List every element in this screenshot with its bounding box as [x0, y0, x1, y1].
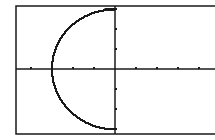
- calculator-graph-screen: [0, 0, 215, 140]
- x-tick: [156, 67, 158, 69]
- x-tick: [198, 67, 200, 69]
- y-tick: [115, 88, 117, 90]
- y-tick: [115, 48, 117, 50]
- x-tick: [177, 67, 179, 69]
- axes: [16, 6, 215, 134]
- x-tick: [135, 67, 137, 69]
- y-tick: [115, 108, 117, 110]
- x-tick: [72, 67, 74, 69]
- x-tick: [93, 67, 95, 69]
- y-tick: [115, 28, 117, 30]
- x-tick: [30, 67, 32, 69]
- graph-plot: [0, 0, 215, 140]
